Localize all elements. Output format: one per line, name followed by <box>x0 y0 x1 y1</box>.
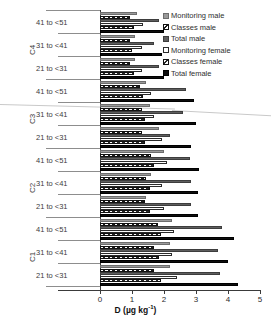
bar-C4-4151-s5 <box>100 30 164 33</box>
legend-label-4: Classes female <box>171 58 222 66</box>
legend-item-4[interactable]: Classes female <box>163 56 231 68</box>
bar-C1-4151-s2 <box>100 226 222 229</box>
bar-C3-2131-s5 <box>100 145 191 148</box>
separator-line <box>58 33 100 34</box>
bar-C1-3141-s2 <box>100 249 218 252</box>
legend-label-1: Classes male <box>171 24 216 32</box>
bar-C2-3141-s1 <box>100 177 146 180</box>
bar-C1-2131-s3 <box>100 276 177 279</box>
separator-line <box>58 56 100 57</box>
bar-C3-4151-s0 <box>100 81 146 84</box>
x-axis-title-tail: ) <box>154 305 157 315</box>
bar-C4-2131-s0 <box>100 58 135 61</box>
bar-C2-2131-s2 <box>100 203 191 206</box>
x-axis-line <box>58 290 261 291</box>
bar-C4-4151-s2 <box>100 19 159 22</box>
category-label-C2-6: 41 to <51 <box>36 156 68 165</box>
bar-C3-3141-s2 <box>100 111 183 114</box>
bar-C2-4151-s0 <box>100 150 164 153</box>
separator-line <box>46 10 100 11</box>
bar-C2-4151-s4 <box>100 164 154 167</box>
x-tick-label-2: 2 <box>154 295 174 304</box>
group-label-C3: C3 <box>28 113 37 123</box>
group-label-C1: C1 <box>28 251 37 261</box>
category-label-C3-5: 21 to <31 <box>36 133 68 142</box>
category-label-C4-0: 41 to <51 <box>36 18 68 27</box>
legend-label-2: Total male <box>171 35 205 43</box>
bar-C4-2131-s3 <box>100 69 142 72</box>
bar-C4-2131-s2 <box>100 65 159 68</box>
bar-C2-3141-s0 <box>100 173 151 176</box>
bar-C2-2131-s0 <box>100 196 146 199</box>
x-tick-5 <box>260 290 261 294</box>
bar-C1-3141-s1 <box>100 246 154 249</box>
legend-item-1[interactable]: Classes male <box>163 22 231 34</box>
legend-item-2[interactable]: Total male <box>163 33 231 45</box>
x-tick-2 <box>164 290 165 294</box>
separator-line <box>46 148 100 149</box>
bar-C4-2131-s5 <box>100 76 164 79</box>
separator-line-end <box>46 286 100 287</box>
separator-line <box>46 79 100 80</box>
bar-C1-3141-s0 <box>100 242 170 245</box>
category-label-C2-7: 31 to <41 <box>36 179 68 188</box>
category-label-C3-4: 31 to <41 <box>36 110 68 119</box>
bar-C3-3141-s0 <box>100 104 150 107</box>
bar-C1-3141-s3 <box>100 253 172 256</box>
x-tick-label-4: 4 <box>218 295 238 304</box>
bar-C4-4151-s3 <box>100 23 143 26</box>
bar-C3-2131-s0 <box>100 127 159 130</box>
bar-C4-4151-s0 <box>100 12 137 15</box>
category-label-C4-2: 21 to <31 <box>36 64 68 73</box>
legend-swatch-icon-0 <box>163 13 169 19</box>
bar-C1-4151-s3 <box>100 230 174 233</box>
bar-C2-2131-s1 <box>100 200 145 203</box>
x-tick-1 <box>132 290 133 294</box>
bar-C4-4151-s1 <box>100 16 130 19</box>
legend-item-3[interactable]: Monitoring female <box>163 45 231 57</box>
bar-C1-3141-s5 <box>100 260 228 263</box>
bar-C1-4151-s1 <box>100 223 158 226</box>
bar-C2-4151-s1 <box>100 154 151 157</box>
separator-line <box>46 217 100 218</box>
bar-C2-3141-s4 <box>100 187 150 190</box>
bar-C4-3141-s3 <box>100 46 142 49</box>
bar-C2-3141-s5 <box>100 191 198 194</box>
separator-line <box>58 125 100 126</box>
bar-chart: 012345 41 to <5131 to <4121 to <3141 to … <box>0 0 271 322</box>
x-tick-label-5: 5 <box>250 295 270 304</box>
bar-C4-3141-s0 <box>100 35 135 38</box>
legend-swatch-icon-5 <box>163 70 169 76</box>
legend-swatch-icon-2 <box>163 36 169 42</box>
bar-C3-2131-s3 <box>100 138 162 141</box>
x-axis-title: D (µg kg-1) <box>0 304 271 315</box>
bar-C2-4151-s3 <box>100 161 167 164</box>
x-tick-label-1: 1 <box>122 295 142 304</box>
group-label-C2: C2 <box>28 182 37 192</box>
bar-C3-3141-s1 <box>100 108 142 111</box>
legend-label-0: Monitoring male <box>171 12 224 20</box>
bar-C3-4151-s5 <box>100 99 194 102</box>
legend-item-0[interactable]: Monitoring male <box>163 10 231 22</box>
bar-C2-3141-s3 <box>100 184 162 187</box>
bar-C4-3141-s1 <box>100 39 130 42</box>
bar-C4-2131-s1 <box>100 62 130 65</box>
bar-C3-3141-s3 <box>100 115 154 118</box>
legend: Monitoring maleClasses maleTotal maleMon… <box>163 10 231 79</box>
category-label-C1-9: 41 to <51 <box>36 225 68 234</box>
x-tick-3 <box>196 290 197 294</box>
x-tick-4 <box>228 290 229 294</box>
legend-item-5[interactable]: Total female <box>163 68 231 80</box>
category-label-C2-8: 21 to <31 <box>36 202 68 211</box>
bar-C3-2131-s1 <box>100 131 142 134</box>
bar-C2-2131-s4 <box>100 210 150 213</box>
bar-C4-3141-s2 <box>100 42 154 45</box>
bar-C1-3141-s4 <box>100 256 159 259</box>
bar-C4-2131-s4 <box>100 72 134 75</box>
category-label-C1-10: 31 to <41 <box>36 248 68 257</box>
x-tick-label-3: 3 <box>186 295 206 304</box>
bar-C2-4151-s2 <box>100 157 190 160</box>
bar-C4-4151-s4 <box>100 26 134 29</box>
bar-C2-2131-s3 <box>100 207 164 210</box>
bar-C1-2131-s1 <box>100 269 154 272</box>
